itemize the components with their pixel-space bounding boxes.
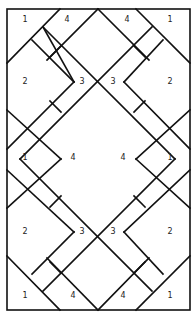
region-label: 4 xyxy=(124,16,129,24)
region-label: 1 xyxy=(22,292,27,300)
region-label: 4 xyxy=(64,16,69,24)
region-label: 2 xyxy=(167,228,172,236)
region-label: 2 xyxy=(167,78,172,86)
region-label: 1 xyxy=(167,292,172,300)
region-label: 2 xyxy=(22,78,27,86)
region-label: 4 xyxy=(70,154,75,162)
region-label: 4 xyxy=(70,292,75,300)
main-diagonals xyxy=(7,9,190,310)
region-label: 3 xyxy=(110,228,115,236)
region-label: 4 xyxy=(120,154,125,162)
region-label: 1 xyxy=(22,16,27,24)
region-label: 1 xyxy=(167,16,172,24)
region-label: 4 xyxy=(120,292,125,300)
tiling-diagram: 1 4 4 1 2 3 3 2 1 4 4 1 2 3 3 2 1 4 4 1 xyxy=(0,0,195,315)
region-label: 1 xyxy=(167,154,172,162)
region-label: 2 xyxy=(22,228,27,236)
region-label: 3 xyxy=(79,78,84,86)
region-label: 3 xyxy=(110,78,115,86)
outer-frame xyxy=(7,9,190,310)
region-label: 1 xyxy=(22,154,27,162)
diagram-lines xyxy=(0,0,195,315)
region-label: 3 xyxy=(79,228,84,236)
